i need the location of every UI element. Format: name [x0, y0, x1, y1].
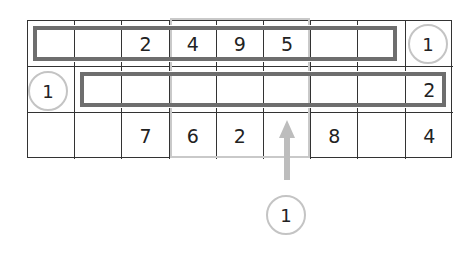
cell-r1c4[interactable] [217, 67, 264, 113]
cell-r2c7[interactable] [358, 113, 405, 159]
cell-r1c6[interactable] [311, 67, 358, 113]
cell-r2c2[interactable]: 7 [122, 113, 169, 159]
arrow-up-icon [279, 120, 295, 180]
circled-clue-value: 1 [42, 81, 53, 102]
bottom-clue-circle: 1 [266, 195, 306, 235]
cell-r2c8[interactable]: 4 [406, 113, 453, 159]
cell-r0c7[interactable] [358, 21, 405, 67]
cell-r0c1[interactable] [75, 21, 122, 67]
cell-r1c8[interactable]: 2 [406, 67, 453, 113]
cell-r0c6[interactable] [311, 21, 358, 67]
cell-r0c2[interactable]: 2 [122, 21, 169, 67]
cell-r2c4[interactable]: 2 [217, 113, 264, 159]
circled-clue-left: 1 [28, 71, 68, 111]
cell-r0c5[interactable]: 5 [264, 21, 311, 67]
cell-r2c3[interactable]: 6 [170, 113, 217, 159]
bottom-clue-value: 1 [280, 205, 291, 226]
cell-r1c7[interactable] [358, 67, 405, 113]
cell-r0c3[interactable]: 4 [170, 21, 217, 67]
cell-r0c0[interactable] [28, 21, 75, 67]
circled-clue-value: 1 [422, 34, 433, 55]
cell-r0c4[interactable]: 9 [217, 21, 264, 67]
cell-r1c2[interactable] [122, 67, 169, 113]
cell-r1c3[interactable] [170, 67, 217, 113]
circled-clue-top-right: 1 [408, 24, 448, 64]
puzzle-grid: 2 4 9 5 2 7 6 2 8 4 [27, 20, 452, 158]
cell-r1c1[interactable] [75, 67, 122, 113]
cell-r1c5[interactable] [264, 67, 311, 113]
cell-r2c0[interactable] [28, 113, 75, 159]
cell-r2c6[interactable]: 8 [311, 113, 358, 159]
cell-r2c1[interactable] [75, 113, 122, 159]
